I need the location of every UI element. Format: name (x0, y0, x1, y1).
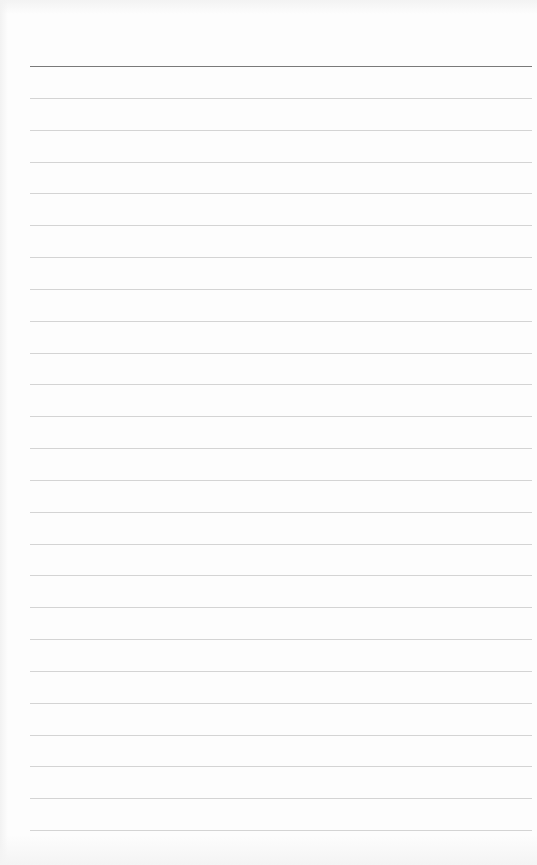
ruled-line (30, 575, 532, 576)
ruled-line (30, 225, 532, 226)
ruled-line (30, 257, 532, 258)
ruled-line (30, 735, 532, 736)
ruled-line (30, 130, 532, 131)
page-top-edge (0, 0, 537, 14)
ruled-line (30, 512, 532, 513)
ruled-line (30, 639, 532, 640)
ruled-line (30, 416, 532, 417)
ruled-line (30, 289, 532, 290)
page-left-edge (0, 0, 8, 865)
ruled-line (30, 830, 532, 831)
ruled-line (30, 671, 532, 672)
header-rule (30, 66, 532, 67)
ruled-line (30, 544, 532, 545)
ruled-line (30, 607, 532, 608)
ruled-line (30, 766, 532, 767)
ruled-line (30, 193, 532, 194)
ruled-line (30, 703, 532, 704)
ruled-line (30, 384, 532, 385)
ruled-line (30, 448, 532, 449)
ruled-line (30, 162, 532, 163)
ruled-line (30, 353, 532, 354)
page-bottom-edge (0, 835, 537, 865)
ruled-line (30, 480, 532, 481)
ruled-line (30, 798, 532, 799)
ruled-line (30, 321, 532, 322)
ruled-line (30, 98, 532, 99)
